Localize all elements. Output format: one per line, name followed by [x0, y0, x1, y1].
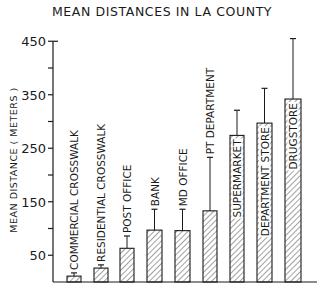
y-tick-label: 150	[21, 195, 46, 210]
bar-label: DRUGSTORE	[287, 103, 299, 169]
bar	[203, 211, 217, 282]
bar-label: DEPARTMENT STORE	[259, 127, 271, 236]
bar-group: BANK	[147, 176, 162, 282]
bar-label: POST OFFICE	[121, 165, 133, 233]
bar-chart: 50150250350450 COMMERCIAL CROSSWALKRESID…	[0, 0, 324, 297]
bar-label: SUPERMARKET	[231, 139, 243, 218]
axes: 50150250350450	[21, 34, 317, 282]
bar-label: MD OFFICE	[177, 148, 189, 206]
y-tick-label: 350	[21, 88, 46, 103]
bar-group: SUPERMARKET	[230, 110, 244, 282]
bar-label: RESIDENTIAL CROSSWALK	[95, 123, 107, 262]
y-tick-label: 250	[21, 141, 46, 156]
y-tick-label: 50	[29, 248, 46, 263]
bar-group: DEPARTMENT STORE	[257, 88, 272, 282]
bar-group: COMMERCIAL CROSSWALK	[67, 129, 81, 282]
bar	[120, 248, 134, 282]
bar-group: POST OFFICE	[120, 165, 134, 282]
bar	[147, 230, 162, 282]
bar-group: RESIDENTIAL CROSSWALK	[94, 123, 108, 282]
bar-label: COMMERCIAL CROSSWALK	[68, 129, 80, 270]
y-tick-label: 450	[21, 34, 46, 49]
bar-label: BANK	[149, 176, 161, 206]
bar	[94, 268, 108, 282]
bar-label: PT DEPARTMENT	[204, 67, 216, 154]
bar	[175, 231, 190, 282]
bars: COMMERCIAL CROSSWALKRESIDENTIAL CROSSWAL…	[67, 39, 301, 282]
bar-group: DRUGSTORE	[285, 39, 301, 282]
bar-group: PT DEPARTMENT	[203, 67, 217, 282]
bar-group: MD OFFICE	[175, 148, 190, 282]
bar	[67, 276, 81, 282]
